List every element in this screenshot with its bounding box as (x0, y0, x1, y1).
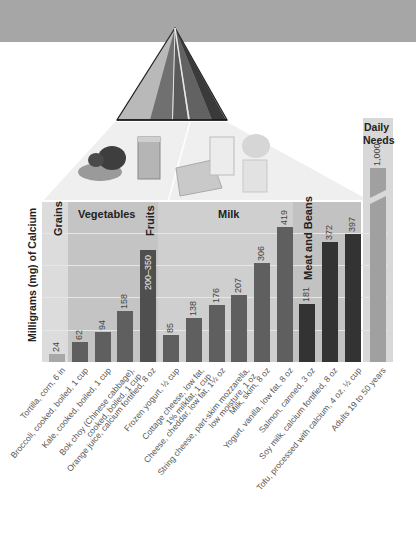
value-label: 176 (211, 288, 221, 303)
group-label-daily: Daily (364, 121, 389, 133)
orange-juice-glass-image (138, 137, 160, 179)
milk-glass-image (210, 137, 234, 175)
group-label-meat-and-beans: Meat and Beans (302, 196, 314, 280)
value-label: 24 (51, 342, 61, 352)
bar-kale (95, 332, 111, 362)
bar-milk-skim (254, 263, 270, 362)
value-label: 138 (188, 301, 198, 316)
group-label-grains: Grains (52, 201, 64, 236)
value-label: 158 (119, 294, 129, 309)
bar-salmon (299, 304, 315, 362)
gridline (42, 233, 388, 234)
value-label: 85 (165, 323, 175, 333)
value-label: 1,000 (372, 143, 382, 166)
value-label: 372 (324, 225, 334, 240)
group-label-vegetables: Vegetables (78, 208, 135, 220)
bar-broccoli (72, 342, 88, 362)
bar-frozen-yogurt (163, 335, 179, 362)
bar-cottage-cheese (186, 318, 202, 362)
bar-bok-choy (117, 311, 133, 362)
bar-cheddar (209, 305, 225, 362)
group-label-fruits: Fruits (144, 205, 156, 236)
yogurt-cup-image (242, 134, 270, 192)
value-label: 306 (256, 246, 266, 261)
bar-tortilla (49, 354, 65, 362)
value-label: 94 (97, 320, 107, 330)
bar-soy-milk (322, 242, 338, 362)
y-axis-label: Milligrams (mg) of Calcium (26, 208, 38, 342)
value-label: 200–350 (143, 255, 153, 290)
value-label: 419 (279, 210, 289, 225)
value-label: 397 (347, 217, 357, 232)
axis-break-mark (366, 186, 390, 206)
bar-yogurt (277, 227, 293, 362)
group-label-milk: Milk (218, 208, 239, 220)
value-label: 207 (233, 278, 243, 293)
food-pyramid-illustration (0, 0, 416, 200)
bar-string-cheese (231, 295, 247, 362)
value-label: 62 (74, 330, 84, 340)
value-label: 181 (301, 287, 311, 302)
bar-tofu (345, 234, 361, 362)
